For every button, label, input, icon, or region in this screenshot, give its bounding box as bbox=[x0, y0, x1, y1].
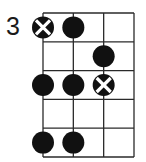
fretboard-grid bbox=[43, 13, 134, 157]
root-note-marker bbox=[32, 16, 54, 38]
note-dot bbox=[32, 132, 54, 154]
note-dot bbox=[62, 16, 84, 38]
note-dot bbox=[62, 132, 84, 154]
note-dot bbox=[32, 74, 54, 96]
note-markers bbox=[32, 16, 115, 153]
root-note-marker bbox=[93, 74, 115, 96]
note-dot bbox=[62, 74, 84, 96]
note-dot bbox=[93, 45, 115, 67]
fretboard-diagram bbox=[0, 0, 146, 162]
